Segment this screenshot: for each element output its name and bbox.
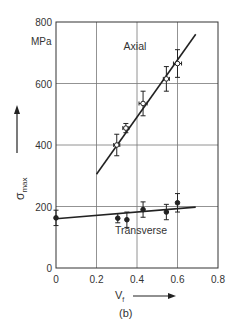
svg-text:Vf: Vf	[115, 289, 124, 303]
x-axis-label: Vf	[115, 289, 176, 303]
y-tick-label: 0	[46, 263, 52, 274]
y-axis-arrow	[14, 105, 20, 153]
tick-labels: 00.20.40.60.80200400600800	[35, 17, 225, 285]
series-axial	[97, 34, 196, 174]
svg-text:σmax: σmax	[13, 177, 29, 200]
y-tick-label: 600	[35, 79, 52, 90]
data-point	[54, 210, 59, 225]
x-tick-label: 0.8	[211, 274, 225, 285]
x-tick-label: 0.4	[130, 274, 144, 285]
annotation-transverse: Transverse	[115, 224, 167, 236]
chart-svg: 00.20.40.60.80200400600800 AxialTransver…	[0, 0, 235, 333]
panel-label: (b)	[119, 307, 132, 319]
chart-container: 00.20.40.60.80200400600800 AxialTransver…	[0, 0, 235, 333]
y-tick-label: 200	[35, 202, 52, 213]
series-transverse	[54, 194, 196, 228]
fit-line	[56, 207, 196, 219]
data-point	[123, 123, 129, 132]
data-point	[173, 50, 181, 78]
y-axis-label: σmax	[13, 177, 29, 200]
data-point	[163, 67, 169, 92]
x-tick-label: 0	[53, 274, 59, 285]
y-tick-label: 400	[35, 140, 52, 151]
x-tick-label: 0.2	[90, 274, 104, 285]
x-axis-arrowhead	[168, 293, 176, 299]
y-unit-label: MPa	[31, 36, 52, 47]
x-tick-label: 0.6	[171, 274, 185, 285]
x-label-sub: f	[122, 296, 124, 303]
y-tick-label: 800	[35, 17, 52, 28]
data-point	[115, 214, 120, 223]
annotation-axial: Axial	[124, 40, 147, 52]
y-label-sub: max	[20, 177, 29, 192]
data-point	[141, 202, 146, 217]
fit-line	[97, 34, 196, 174]
data-point	[114, 134, 120, 156]
data-series: AxialTransverse	[54, 34, 196, 236]
